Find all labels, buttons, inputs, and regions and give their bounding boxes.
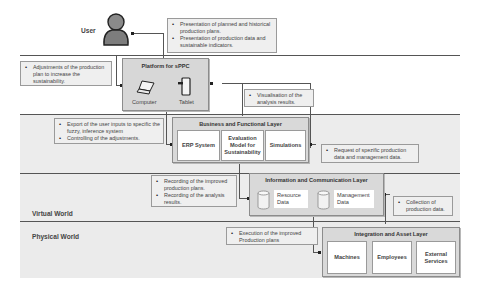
arrow-head <box>318 251 321 254</box>
connector <box>385 194 386 224</box>
note-item: Presentation of production data and sust… <box>171 35 273 49</box>
database-icon <box>317 190 330 210</box>
integration-layer-title: Integration and Asset Layer <box>323 231 459 237</box>
note-item: Export of the user inputs to specific th… <box>58 121 160 135</box>
note-item: Controlling of the adjustments. <box>58 135 160 142</box>
machines: Machines <box>327 241 367 274</box>
note-request: Request of spezific production data and … <box>321 144 419 163</box>
divider-platform-business <box>20 114 460 115</box>
business-layer-title: Business and Functional Layer <box>173 121 308 127</box>
note-item: Execution of the improved Production pla… <box>230 230 314 244</box>
note-item: Request of spezific production data and … <box>325 147 415 161</box>
laptop-icon <box>136 79 156 97</box>
arrow-head <box>309 143 312 146</box>
note-item: Recording of the improved production pla… <box>155 178 233 192</box>
user-icon <box>101 12 131 47</box>
information-layer: Information and Communication Layer Reso… <box>249 173 384 216</box>
integration-layer: Integration and Asset Layer Machines Emp… <box>322 227 460 277</box>
connector <box>239 163 240 198</box>
information-layer-title: Information and Communication Layer <box>250 177 383 183</box>
tablet-label: Tablet <box>179 99 194 105</box>
connector <box>131 33 164 34</box>
external-services: External Services <box>416 241 456 274</box>
note-item: Visualisation of the analysis results. <box>248 92 310 106</box>
database-icon <box>257 190 270 210</box>
arrow-head <box>131 32 134 35</box>
platform-title: Platform for sPPC <box>123 63 208 69</box>
computer-label: Computer <box>132 99 157 105</box>
note-export: Export of the user inputs to specific th… <box>54 118 164 144</box>
note-presentation: Presentation of planned and historical p… <box>167 18 277 53</box>
connector <box>222 83 310 84</box>
divider-user-platform <box>20 55 460 56</box>
management-data: Management Data <box>334 190 374 208</box>
arrow-head <box>210 82 213 85</box>
connector <box>242 84 243 116</box>
physical-world-label: Physical World <box>32 233 79 240</box>
divider-virtual-physical <box>20 221 460 222</box>
simulations: Simulations <box>265 130 306 161</box>
evaluation-model: Evaluation Model for Sustainability <box>221 130 264 161</box>
note-recording: Recording of the improved production pla… <box>151 175 237 207</box>
note-item: Recording of the analysis results. <box>155 192 233 206</box>
employees: Employees <box>372 241 412 274</box>
connector <box>116 55 117 86</box>
note-item: Collection of production data. <box>397 199 449 213</box>
note-item: Adjustments of the production plan to in… <box>24 64 108 85</box>
virtual-world-label: Virtual World <box>32 210 73 217</box>
resource-data: Resource Data <box>274 190 308 208</box>
connector <box>166 112 167 144</box>
platform-box: Platform for sPPC Computer Tablet <box>122 58 209 111</box>
note-item: Presentation of planned and historical p… <box>171 21 273 35</box>
user-label: User <box>81 27 96 34</box>
note-collection: Collection of production data. <box>393 196 453 216</box>
business-layer: Business and Functional Layer ERP System… <box>172 117 309 163</box>
note-execution: Execution of the improved Production pla… <box>226 227 318 245</box>
tablet-icon <box>178 76 192 97</box>
erp-system: ERP System <box>177 130 220 161</box>
note-adjustments: Adjustments of the production plan to in… <box>20 61 112 86</box>
divider-business-information <box>20 173 460 174</box>
note-visualisation: Visualisation of the analysis results. <box>244 89 314 107</box>
